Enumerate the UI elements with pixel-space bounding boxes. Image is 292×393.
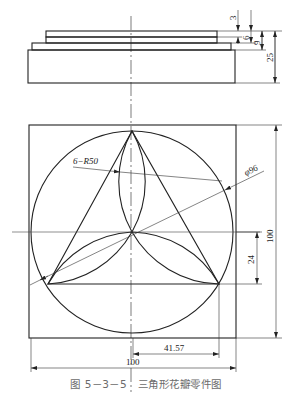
dim-9-label: 9 (252, 40, 262, 45)
dim-6-label: 6 (241, 35, 251, 40)
dim-25-label: 25 (265, 53, 275, 63)
dim-41-57-label: 41.57 (164, 343, 185, 353)
petal-top (119, 131, 145, 232)
side-view (28, 16, 235, 392)
base-block (28, 50, 235, 83)
second-plate (46, 37, 217, 43)
petal-left (48, 232, 132, 284)
dim-width-100-label: 100 (126, 357, 140, 367)
r50-leader (73, 167, 120, 172)
figure-caption: 图 5－3－5 三角形花瓣零件图 (0, 376, 292, 391)
diameter-label: φ96 (242, 162, 259, 177)
dim-3-label: 3 (228, 15, 238, 20)
third-plate (32, 43, 231, 50)
top-view (29, 125, 236, 338)
dim-height-100-label: 100 (265, 229, 275, 243)
triangle (48, 131, 219, 284)
top-view-annotations (30, 167, 264, 285)
side-view-dimensions (217, 10, 282, 83)
dim-24-label: 24 (246, 255, 256, 265)
top-view-dimensions (31, 125, 282, 372)
petal-right (132, 232, 219, 284)
drawing-canvas: 3 6 9 25 6−R50 φ96 (0, 0, 292, 393)
radius-label: 6−R50 (73, 156, 99, 166)
top-plate (46, 31, 217, 37)
